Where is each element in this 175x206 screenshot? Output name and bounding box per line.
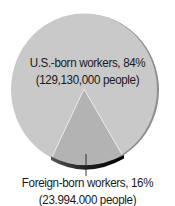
label-us-born: U.S.-born workers, 84% (129,130,000 peop… <box>12 54 163 88</box>
label-foreign-born-title: Foreign-born workers, 16% <box>4 174 172 191</box>
pie-chart: U.S.-born workers, 84% (129,130,000 peop… <box>0 0 175 206</box>
label-foreign-born: Foreign-born workers, 16% (23.994.000 pe… <box>4 174 172 206</box>
label-us-born-count: (129,130,000 people) <box>12 71 163 88</box>
label-us-born-title: U.S.-born workers, 84% <box>12 54 163 71</box>
label-foreign-born-count: (23.994.000 people) <box>4 191 172 206</box>
